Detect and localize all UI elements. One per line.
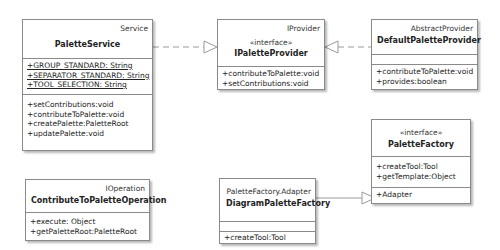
attributes-section bbox=[220, 222, 315, 232]
operation: +contributeToPalette:void bbox=[222, 69, 320, 79]
operations-section: +contributeToPalette:void +setContributi… bbox=[218, 67, 324, 90]
class-name: ContributeToPaletteOperation bbox=[31, 196, 166, 205]
inner-class-adapter[interactable]: +Adapter bbox=[376, 190, 466, 200]
attribute: +TOOL_SELECTION: String bbox=[27, 80, 148, 90]
operation: +getPaletteRoot:PaletteRoot bbox=[30, 227, 145, 237]
operation: +contributeToPalette:void bbox=[27, 110, 148, 120]
class-name: IPaletteProvider bbox=[218, 49, 324, 58]
attribute: +GROUP_STANDARD: String bbox=[27, 61, 148, 71]
operation: +createTool:Tool bbox=[224, 233, 311, 243]
class-header: AbstractProvider DefaultPaletteProvider bbox=[372, 20, 477, 55]
parent-label: IProvider bbox=[287, 24, 320, 33]
operations-section: +createTool:Tool bbox=[220, 232, 315, 245]
class-diagram-palette-factory[interactable]: PaletteFactory.Adapter DiagramPaletteFac… bbox=[219, 178, 316, 244]
operation: +createPalette:PaletteRoot bbox=[27, 119, 148, 129]
operation: +getTemplate:Object bbox=[376, 172, 466, 182]
inner-classes-section: +Adapter bbox=[372, 188, 470, 202]
operation: +updatePalette:void bbox=[27, 129, 148, 139]
operation: +setContributions:void bbox=[27, 100, 148, 110]
operation: +provides:boolean bbox=[376, 77, 473, 87]
parent-label: IOperation bbox=[105, 184, 145, 193]
class-header: Service PaletteService bbox=[23, 20, 152, 59]
class-name: DefaultPaletteProvider bbox=[377, 36, 481, 45]
operations-section: +execute: Object +getPaletteRoot:Palette… bbox=[26, 213, 149, 238]
attributes-section bbox=[372, 55, 477, 65]
realization-service-to-provider bbox=[153, 41, 217, 53]
class-header: «interface» PaletteFactory bbox=[372, 120, 470, 157]
operations-section: +contributeToPalette:void +provides:bool… bbox=[372, 65, 477, 88]
class-ipalette-provider[interactable]: IProvider «interface» IPaletteProvider +… bbox=[217, 19, 325, 90]
stereotype-label: «interface» bbox=[218, 38, 324, 47]
realization-default-to-provider bbox=[325, 41, 371, 53]
class-default-palette-provider[interactable]: AbstractProvider DefaultPaletteProvider … bbox=[371, 19, 478, 90]
operation: +createTool:Tool bbox=[376, 162, 466, 172]
class-header: IProvider «interface» IPaletteProvider bbox=[218, 20, 324, 67]
parent-label: PaletteFactory.Adapter bbox=[227, 187, 311, 196]
class-palette-factory[interactable]: «interface» PaletteFactory +createTool:T… bbox=[371, 119, 471, 204]
class-header: IOperation ContributeToPaletteOperation bbox=[26, 180, 149, 213]
operation: +contributeToPalette:void bbox=[376, 67, 473, 77]
parent-label: AbstractProvider bbox=[411, 24, 473, 33]
parent-label: Service bbox=[120, 24, 148, 33]
stereotype-label: «interface» bbox=[372, 128, 470, 137]
class-name: PaletteService bbox=[23, 40, 152, 49]
class-header: PaletteFactory.Adapter DiagramPaletteFac… bbox=[220, 179, 315, 222]
class-contribute-to-palette-operation[interactable]: IOperation ContributeToPaletteOperation … bbox=[25, 179, 150, 241]
class-name: DiagramPaletteFactory bbox=[226, 199, 330, 208]
attributes-section: +GROUP_STANDARD: String +SEPARATOR_STAND… bbox=[23, 59, 152, 95]
operations-section: +setContributions:void +contributeToPale… bbox=[23, 95, 152, 140]
operations-section: +createTool:Tool +getTemplate:Object bbox=[372, 157, 470, 188]
operation: +setContributions:void bbox=[222, 79, 320, 89]
attribute: +SEPARATOR_STANDARD: String bbox=[27, 71, 148, 81]
operation: +execute: Object bbox=[30, 217, 145, 227]
class-name: PaletteFactory bbox=[372, 140, 470, 149]
class-palette-service[interactable]: Service PaletteService +GROUP_STANDARD: … bbox=[22, 19, 153, 151]
